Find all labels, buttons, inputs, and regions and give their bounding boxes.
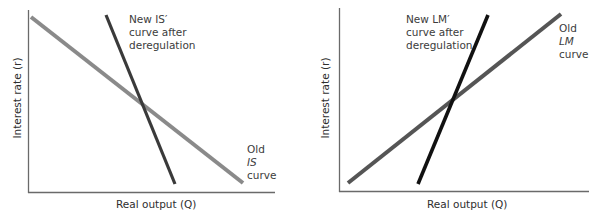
new-is-label-line-2: curve after <box>129 26 195 39</box>
left-x-axis-label: Real output (Q) <box>116 198 196 210</box>
left-y-axis-label: Interest rate (r) <box>11 48 23 148</box>
right-y-axis-label: Interest rate (r) <box>319 48 331 148</box>
right-x-axis-label: Real output (Q) <box>427 198 507 210</box>
diagram-canvas <box>0 0 597 216</box>
new-lm-label: New LM′ curve after deregulation <box>406 13 472 52</box>
new-is-label-line-1: New IS′ <box>129 13 195 26</box>
old-is-label: Old IS curve <box>247 143 276 182</box>
old-lm-label-line-3: curve <box>559 48 588 61</box>
new-lm-label-line-3: deregulation <box>406 39 472 52</box>
old-lm-label: Old LM curve <box>559 22 588 61</box>
old-is-label-line-3: curve <box>247 169 276 182</box>
old-lm-label-line-2: LM <box>559 35 588 48</box>
new-lm-label-line-1: New LM′ <box>406 13 472 26</box>
new-lm-label-line-2: curve after <box>406 26 472 39</box>
new-is-label: New IS′ curve after deregulation <box>129 13 195 52</box>
old-is-label-line-1: Old <box>247 143 276 156</box>
new-is-label-line-3: deregulation <box>129 39 195 52</box>
old-lm-label-line-1: Old <box>559 22 588 35</box>
old-is-label-line-2: IS <box>247 156 276 169</box>
